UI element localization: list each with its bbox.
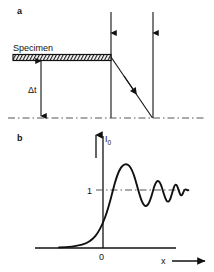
incident-beam-group — [111, 12, 153, 118]
y-axis-label: I0 — [105, 134, 112, 146]
thickness-measure: Δt — [28, 61, 41, 116]
intensity-curve — [59, 164, 188, 247]
panel-b-letter: b — [17, 133, 23, 143]
specimen-bar — [13, 55, 111, 61]
origin-label: 0 — [99, 252, 104, 262]
deflected-ray-direction-arrow — [124, 76, 135, 92]
y-axis-label-sub: 0 — [108, 139, 112, 146]
reference-level-label: 1 — [87, 186, 92, 196]
figure-svg: a Specimen Δt — [0, 0, 214, 272]
specimen-label: Specimen — [13, 43, 53, 53]
x-axis-label: x — [161, 256, 166, 266]
specimen-hatch-rect — [13, 55, 111, 61]
panel-a: a Specimen Δt — [8, 6, 206, 118]
figure-root: a Specimen Δt — [0, 0, 214, 272]
panel-b: b I0 x 1 0 — [17, 133, 205, 266]
thickness-label: Δt — [28, 85, 37, 95]
panel-a-letter: a — [17, 6, 23, 16]
